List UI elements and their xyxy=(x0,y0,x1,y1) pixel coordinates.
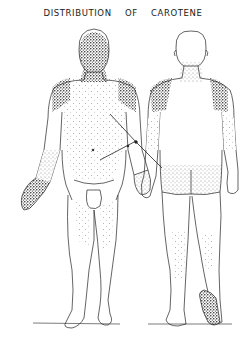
front-left-hand xyxy=(21,178,50,210)
sole-stipple xyxy=(200,290,221,325)
front-figure xyxy=(21,29,150,328)
front-right-hand xyxy=(134,170,151,195)
front-torso-stipple xyxy=(60,74,128,180)
carotene-distribution-illustration xyxy=(0,0,246,347)
back-figure xyxy=(141,31,238,326)
back-head xyxy=(176,31,206,66)
